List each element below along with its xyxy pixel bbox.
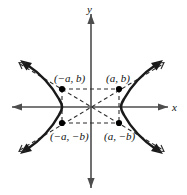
hyperbola-svg xyxy=(0,0,187,195)
point-label-top-right: (a, b) xyxy=(106,73,130,84)
point-label-top-left: (−a, b) xyxy=(54,73,85,84)
hyperbola-figure: (−a, b) (a, b) (−a, −b) (a, −b) y x xyxy=(0,0,187,195)
y-axis-label: y xyxy=(87,4,92,15)
y-axis-arrow-up xyxy=(87,14,94,24)
point-top-right[interactable] xyxy=(116,86,122,92)
x-axis-arrow-left xyxy=(12,103,22,110)
point-bottom-left[interactable] xyxy=(59,120,65,126)
x-axis-label: x xyxy=(172,102,177,113)
point-label-bottom-left: (−a, −b) xyxy=(50,131,89,142)
point-bottom-right[interactable] xyxy=(116,120,122,126)
y-axis-arrow-down xyxy=(87,178,94,188)
point-label-bottom-right: (a, −b) xyxy=(104,131,135,142)
x-axis-arrow-right xyxy=(158,103,168,110)
axes-group xyxy=(12,14,168,188)
point-top-left[interactable] xyxy=(59,86,65,92)
